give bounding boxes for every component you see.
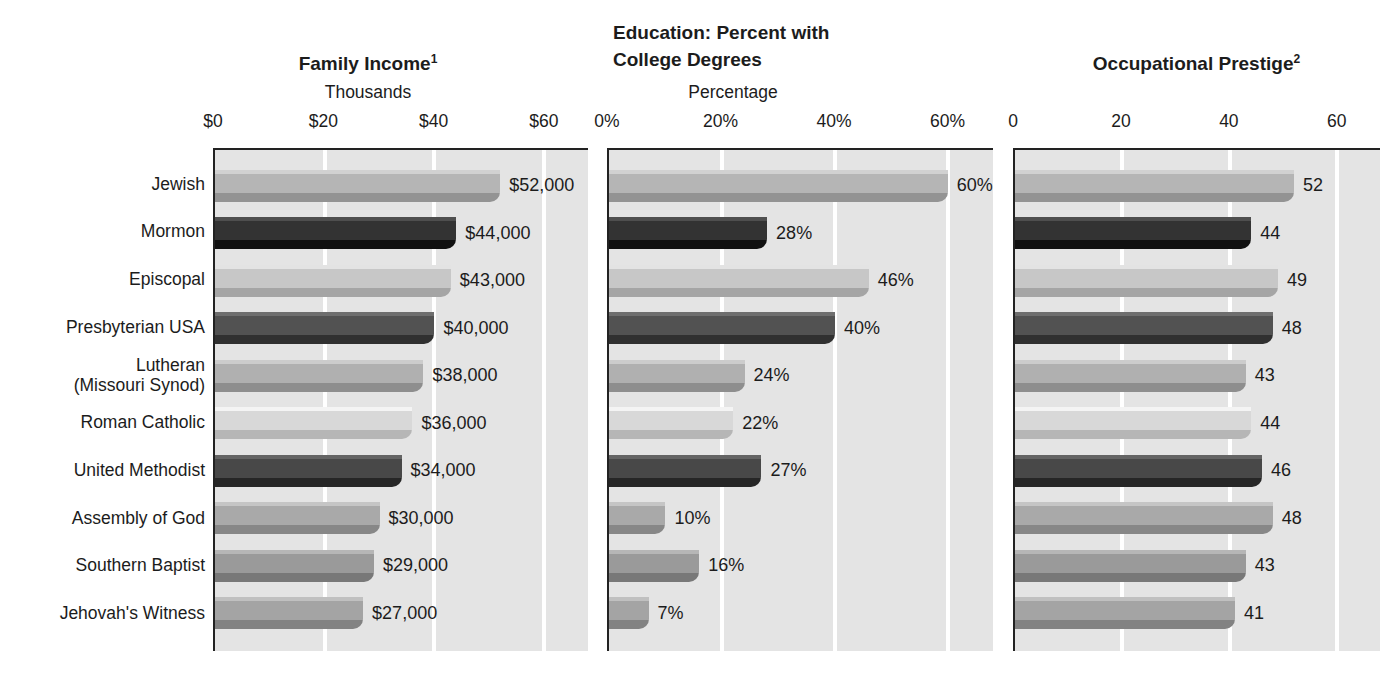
tick-label: 40% xyxy=(817,111,852,132)
bar-row: 48 xyxy=(1015,305,1380,353)
value-label: 22% xyxy=(742,413,778,434)
bars-prestige: 52444948434446484341 xyxy=(1015,150,1380,651)
tick-label: $0 xyxy=(203,111,222,132)
bars-education: 60%28%46%40%24%22%27%10%16%7% xyxy=(609,150,993,651)
bar-row: 10% xyxy=(609,495,993,543)
value-label: 44 xyxy=(1260,413,1280,434)
tick-label: 0% xyxy=(594,111,619,132)
axis-income: $0$20$40$60 xyxy=(213,111,588,137)
bar-prestige xyxy=(1015,502,1273,534)
bar-education xyxy=(609,597,649,629)
value-label: $40,000 xyxy=(443,318,508,339)
plot-income: $52,000$44,000$43,000$40,000$38,000$36,0… xyxy=(213,148,588,651)
category-label: Lutheran(Missouri Synod) xyxy=(0,351,205,399)
bar-row: 7% xyxy=(609,590,993,638)
plot-prestige: 52444948434446484341 xyxy=(1013,148,1380,651)
bar-income xyxy=(215,455,402,487)
value-label: $43,000 xyxy=(460,270,525,291)
tick-label: $20 xyxy=(309,111,338,132)
bar-prestige xyxy=(1015,170,1294,202)
chart-title-prestige: Occupational Prestige2 xyxy=(1013,46,1380,77)
chart-title-education: Education: Percent with College Degrees xyxy=(613,19,829,73)
tick-label: $40 xyxy=(419,111,448,132)
value-label: 7% xyxy=(658,603,684,624)
bar-row: 44 xyxy=(1015,400,1380,448)
bar-education xyxy=(609,360,745,392)
bar-row: 60% xyxy=(609,162,993,210)
bar-row: 44 xyxy=(1015,210,1380,258)
footnote-marker-1: 1 xyxy=(431,52,438,66)
bar-income xyxy=(215,597,363,629)
chart-title-income: Family Income1 xyxy=(213,46,523,77)
bar-row: 52 xyxy=(1015,162,1380,210)
value-label: $36,000 xyxy=(421,413,486,434)
tick-label: 20% xyxy=(703,111,738,132)
bars-income: $52,000$44,000$43,000$40,000$38,000$36,0… xyxy=(215,150,588,651)
tick-label: 60% xyxy=(930,111,965,132)
bar-prestige xyxy=(1015,360,1246,392)
value-label: 46 xyxy=(1271,460,1291,481)
bar-income xyxy=(215,550,374,582)
bar-row: 43 xyxy=(1015,352,1380,400)
axis-subtitle-percentage: Percentage xyxy=(613,82,853,103)
bar-row: $29,000 xyxy=(215,542,588,590)
tick-label: 60 xyxy=(1327,111,1346,132)
bar-row: 16% xyxy=(609,542,993,590)
bar-row: $52,000 xyxy=(215,162,588,210)
bar-row: 27% xyxy=(609,447,993,495)
value-label: 49 xyxy=(1287,270,1307,291)
bar-education xyxy=(609,265,869,297)
value-label: 44 xyxy=(1260,223,1280,244)
value-label: 41 xyxy=(1244,603,1264,624)
axis-prestige: 0204060 xyxy=(1013,111,1380,137)
chart-title-education-line2: College Degrees xyxy=(613,46,829,73)
bar-income xyxy=(215,265,451,297)
chart-title-income-text: Family Income xyxy=(299,53,431,74)
bar-row: $38,000 xyxy=(215,352,588,400)
value-label: 10% xyxy=(674,508,710,529)
bar-row: 46 xyxy=(1015,447,1380,495)
bar-row: $27,000 xyxy=(215,590,588,638)
value-label: 28% xyxy=(776,223,812,244)
value-label: $29,000 xyxy=(383,555,448,576)
axis-education: 0%20%40%60% xyxy=(607,111,993,137)
value-label: 43 xyxy=(1255,555,1275,576)
plot-education: 60%28%46%40%24%22%27%10%16%7% xyxy=(607,148,993,651)
bar-row: $40,000 xyxy=(215,305,588,353)
bar-prestige xyxy=(1015,455,1262,487)
bar-income xyxy=(215,170,500,202)
bar-prestige xyxy=(1015,265,1278,297)
value-label: 16% xyxy=(708,555,744,576)
bar-row: 28% xyxy=(609,210,993,258)
bar-education xyxy=(609,217,767,249)
bar-education xyxy=(609,407,733,439)
bar-prestige xyxy=(1015,550,1246,582)
tick-label: 0 xyxy=(1008,111,1018,132)
bar-income xyxy=(215,360,423,392)
category-label: Presbyterian USA xyxy=(0,303,205,351)
value-label: $52,000 xyxy=(509,175,574,196)
category-label: Mormon xyxy=(0,208,205,256)
value-label: 46% xyxy=(878,270,914,291)
bar-education xyxy=(609,312,835,344)
value-label: $34,000 xyxy=(411,460,476,481)
value-label: $27,000 xyxy=(372,603,437,624)
value-label: 48 xyxy=(1282,508,1302,529)
axis-subtitle-thousands: Thousands xyxy=(213,82,523,103)
value-label: $30,000 xyxy=(389,508,454,529)
bar-education xyxy=(609,550,699,582)
tick-label: $60 xyxy=(529,111,558,132)
category-labels: JewishMormonEpiscopalPresbyterian USALut… xyxy=(0,148,205,651)
bar-income xyxy=(215,502,380,534)
bar-prestige xyxy=(1015,312,1273,344)
value-label: 43 xyxy=(1255,365,1275,386)
category-label: Southern Baptist xyxy=(0,542,205,590)
bar-income xyxy=(215,217,456,249)
value-label: 40% xyxy=(844,318,880,339)
bar-row: 40% xyxy=(609,305,993,353)
bar-education xyxy=(609,455,761,487)
bar-prestige xyxy=(1015,407,1251,439)
bar-row: $44,000 xyxy=(215,210,588,258)
category-label: Assembly of God xyxy=(0,494,205,542)
value-label: 52 xyxy=(1303,175,1323,196)
